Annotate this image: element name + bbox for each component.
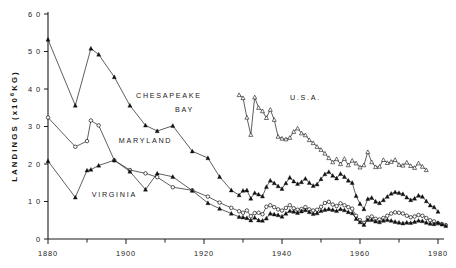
series-label-chesapeake: CHESAPEAKE [136, 91, 202, 100]
data-point-open-circle [206, 195, 210, 199]
data-point-open-circle [272, 205, 276, 209]
data-point-open-circle [409, 216, 413, 220]
data-point-open-circle [276, 208, 280, 212]
data-point-open-circle [405, 214, 409, 218]
data-point-open-circle [249, 214, 253, 218]
data-point-open-circle [230, 206, 234, 210]
data-point-open-triangle [303, 133, 307, 137]
data-point-open-triangle [264, 116, 268, 120]
data-point-filled-triangle [268, 178, 272, 182]
y-tick-label: 5 0 [28, 47, 41, 56]
landings-line-chart: 01 02 03 04 05 06 0188019001920194019601… [0, 0, 456, 268]
data-point-filled-triangle [284, 211, 288, 215]
data-point-open-triangle [237, 93, 241, 97]
data-point-filled-triangle [385, 218, 389, 222]
x-tick-label: 1940 [272, 249, 292, 258]
y-tick-label: 4 0 [28, 85, 41, 94]
data-point-filled-triangle [303, 176, 307, 180]
data-point-open-circle [97, 124, 101, 128]
data-point-filled-triangle [128, 103, 132, 107]
data-point-open-circle [327, 200, 331, 204]
data-point-open-circle [393, 211, 397, 215]
data-point-open-circle [343, 204, 347, 208]
data-point-open-triangle [350, 159, 354, 163]
data-point-open-circle [350, 207, 354, 211]
data-point-filled-triangle [249, 218, 253, 222]
series-line [48, 40, 438, 212]
series-chesapeake-bay [46, 37, 440, 213]
data-point-filled-triangle [315, 211, 319, 215]
series-label-virginia: VIRGINIA [92, 190, 137, 199]
data-point-filled-triangle [276, 184, 280, 188]
data-point-filled-triangle [296, 182, 300, 186]
data-point-open-triangle [370, 160, 374, 164]
data-point-open-circle [280, 209, 284, 213]
y-axis-title: LANDINGS (x106KG) [9, 70, 19, 182]
x-tick-label: 1980 [428, 249, 448, 258]
x-tick-label: 1960 [350, 249, 370, 258]
data-point-open-circle [335, 204, 339, 208]
data-point-open-circle [218, 201, 222, 205]
data-point-open-circle [389, 212, 393, 216]
data-point-filled-triangle [358, 202, 362, 206]
data-point-filled-triangle [288, 209, 292, 213]
data-point-filled-triangle [155, 171, 159, 175]
data-point-filled-triangle [385, 194, 389, 198]
data-point-open-triangle [381, 158, 385, 162]
data-point-filled-triangle [260, 194, 264, 198]
data-point-open-circle [319, 205, 323, 209]
data-point-open-triangle [405, 160, 409, 164]
data-point-open-triangle [257, 106, 261, 110]
data-point-open-circle [386, 214, 390, 218]
data-point-filled-triangle [171, 124, 175, 128]
series-u-s-a [237, 93, 428, 172]
y-tick-label: 1 0 [28, 197, 41, 206]
chart-page: 01 02 03 04 05 06 0188019001920194019601… [0, 0, 456, 268]
data-point-filled-triangle [350, 181, 354, 185]
data-point-open-circle [417, 213, 421, 217]
data-point-open-circle [269, 204, 273, 208]
data-point-filled-triangle [46, 37, 50, 41]
data-point-filled-triangle [327, 207, 331, 211]
data-point-open-circle [261, 213, 265, 217]
data-point-open-circle [397, 211, 401, 215]
series-label-maryland: MARYLAND [119, 136, 172, 145]
data-point-open-triangle [389, 160, 393, 164]
data-point-open-triangle [253, 95, 257, 99]
x-tick-label: 1920 [194, 249, 214, 258]
data-point-open-circle [89, 119, 93, 123]
data-point-open-circle [401, 212, 405, 216]
data-point-open-triangle [268, 108, 272, 112]
data-point-open-triangle [276, 135, 280, 139]
data-point-filled-triangle [253, 191, 257, 195]
data-point-open-circle [241, 211, 245, 215]
data-point-open-triangle [354, 161, 358, 165]
data-point-open-circle [85, 139, 89, 143]
data-point-open-circle [284, 206, 288, 210]
data-point-open-triangle [280, 136, 284, 140]
data-point-filled-triangle [89, 167, 93, 171]
data-point-filled-triangle [89, 46, 93, 50]
data-point-filled-triangle [218, 206, 222, 210]
data-point-filled-triangle [323, 172, 327, 176]
data-point-open-circle [46, 116, 50, 120]
data-point-open-triangle [366, 150, 370, 154]
y-tick-label: 6 0 [28, 10, 41, 19]
axis-titles: LANDINGS (x106KG) [9, 70, 19, 182]
data-point-filled-triangle [416, 193, 420, 197]
data-point-open-circle [171, 186, 175, 190]
data-point-filled-triangle [338, 207, 342, 211]
y-tick-label: 0 [36, 235, 41, 244]
series-label-u-s-a: U.S.A. [290, 93, 321, 102]
data-point-filled-triangle [46, 159, 50, 163]
data-point-filled-triangle [370, 196, 374, 200]
data-point-open-triangle [272, 118, 276, 122]
data-point-filled-triangle [288, 175, 292, 179]
data-point-open-circle [347, 205, 351, 209]
data-point-open-triangle [249, 133, 253, 137]
data-point-open-triangle [335, 157, 339, 161]
data-point-open-triangle [393, 158, 397, 162]
series-maryland [46, 116, 447, 227]
series-label-bay: BAY [175, 105, 194, 114]
data-point-filled-triangle [354, 194, 358, 198]
